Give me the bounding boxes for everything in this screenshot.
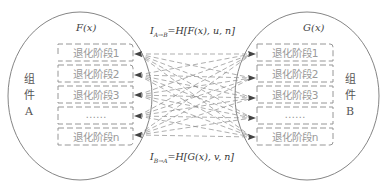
formula-a-to-b: IA→B=H[F(x), u, n] [150,25,235,38]
component-b-stage-2: 退化阶段2 [259,67,331,81]
component-b-stage-ellipsis: …… [259,107,331,121]
component-b-label-char: B [343,104,357,120]
formula-a-to-b-rhs: =H[F(x), u, n] [168,25,235,36]
component-a-function: F(x) [76,22,96,33]
component-b-label-char: 件 [343,88,357,104]
component-a-stage-ellipsis: …… [60,107,132,121]
component-a-label-char: A [22,104,36,120]
component-a-label-char: 件 [22,88,36,104]
component-b-arrowheads [248,51,256,140]
formula-a-to-b-subscript: A→B [154,31,168,38]
component-b-stage-1: 退化阶段1 [259,46,331,60]
component-a-arrowheads [134,51,142,138]
component-a-stage-3: 退化阶段3 [60,88,132,102]
component-b-stage-3: 退化阶段3 [259,88,331,102]
formula-b-to-a-subscript: B→A [154,157,168,164]
component-a-label: 组 件 A [22,72,36,120]
component-b-label-char: 组 [343,72,357,88]
component-b-function: G(x) [303,22,324,33]
component-a-stage-1: 退化阶段1 [60,46,132,60]
component-a-stage-2: 退化阶段2 [60,67,132,81]
component-b-stage-n: 退化阶段n [259,130,331,144]
component-b-label: 组 件 B [343,72,357,120]
formula-b-to-a: IB→A=H[G(x), v, n] [150,151,234,164]
component-a-label-char: 组 [22,72,36,88]
component-a-stage-n: 退化阶段n [60,130,132,144]
formula-b-to-a-rhs: =H[G(x), v, n] [168,151,234,162]
